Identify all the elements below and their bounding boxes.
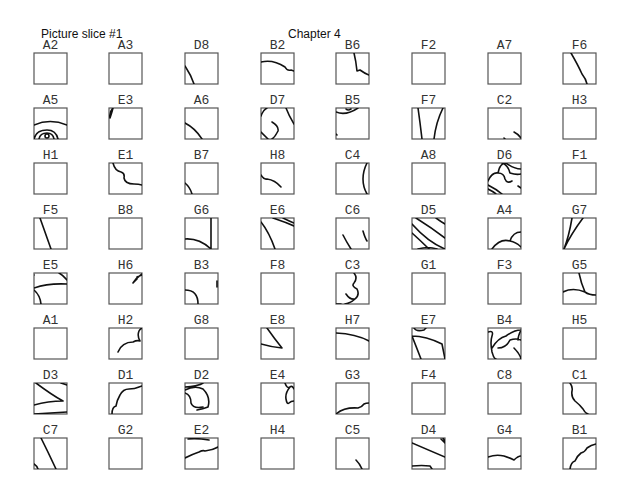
slice-cell: F2 — [412, 39, 472, 91]
slice-image — [488, 383, 521, 414]
slice-label: A5 — [34, 94, 67, 107]
slice-label: G7 — [563, 204, 596, 217]
slice-image — [261, 438, 294, 469]
slice-image — [261, 218, 294, 249]
slice-cell: H8 — [261, 149, 321, 201]
slice-frame — [34, 383, 67, 414]
slice-cell: G7 — [563, 204, 623, 256]
slice-cell: B2 — [261, 39, 321, 91]
slice-image — [488, 328, 521, 359]
slice-cell: A5 — [34, 94, 94, 146]
slice-image — [412, 108, 445, 139]
slice-cell: D4 — [412, 424, 472, 476]
slice-image — [261, 328, 294, 359]
slice-frame — [412, 273, 445, 304]
slice-frame — [563, 108, 596, 139]
slice-cell: H2 — [109, 314, 169, 366]
slice-frame — [412, 438, 445, 469]
slice-label: B3 — [185, 259, 218, 272]
slice-frame — [488, 53, 521, 84]
slice-cell: G3 — [336, 369, 396, 421]
slice-label: F1 — [563, 149, 596, 162]
slice-label: A8 — [412, 149, 445, 162]
slice-image — [563, 383, 596, 414]
slice-label: D2 — [185, 369, 218, 382]
slice-label: H3 — [563, 94, 596, 107]
slice-label: H6 — [109, 259, 142, 272]
slice-frame — [185, 328, 218, 359]
slice-cell: F4 — [412, 369, 472, 421]
slice-label: H7 — [336, 314, 369, 327]
slice-cell: C1 — [563, 369, 623, 421]
slice-cell: F8 — [261, 259, 321, 311]
slice-image — [336, 328, 369, 359]
slice-label: A3 — [109, 39, 142, 52]
slice-label: D6 — [488, 149, 521, 162]
slice-cell: D1 — [109, 369, 169, 421]
slice-label: E7 — [412, 314, 445, 327]
slice-label: C8 — [488, 369, 521, 382]
slice-label: C5 — [336, 424, 369, 437]
slice-image — [336, 53, 369, 84]
slice-label: C4 — [336, 149, 369, 162]
slice-cell: F7 — [412, 94, 472, 146]
slice-frame — [185, 108, 218, 139]
slice-cell: B7 — [185, 149, 245, 201]
slice-image — [261, 163, 294, 194]
slice-image — [336, 438, 369, 469]
slice-frame — [109, 218, 142, 249]
slice-image — [261, 108, 294, 139]
slice-cell: F1 — [563, 149, 623, 201]
slice-label: B1 — [563, 424, 596, 437]
slice-image — [109, 218, 142, 249]
slice-cell: D7 — [261, 94, 321, 146]
slice-label: F2 — [412, 39, 445, 52]
slice-image — [109, 108, 142, 139]
slice-label: C3 — [336, 259, 369, 272]
slice-image — [336, 163, 369, 194]
slice-image — [185, 383, 218, 414]
slice-label: C7 — [34, 424, 67, 437]
slice-frame — [109, 53, 142, 84]
slice-cell: D6 — [488, 149, 548, 201]
slice-image — [109, 438, 142, 469]
slice-cell: H1 — [34, 149, 94, 201]
slice-image — [34, 53, 67, 84]
slice-label: F6 — [563, 39, 596, 52]
slice-frame — [185, 273, 218, 304]
slice-label: C6 — [336, 204, 369, 217]
slice-frame — [488, 273, 521, 304]
slice-frame — [34, 163, 67, 194]
slice-cell: A7 — [488, 39, 548, 91]
slice-frame — [488, 108, 521, 139]
slice-cell: C4 — [336, 149, 396, 201]
slice-label: B2 — [261, 39, 294, 52]
slice-image — [34, 438, 67, 469]
slice-frame — [563, 163, 596, 194]
slice-frame — [261, 438, 294, 469]
slice-label: G4 — [488, 424, 521, 437]
slice-label: H5 — [563, 314, 596, 327]
slice-frame — [34, 328, 67, 359]
slice-frame — [563, 328, 596, 359]
slice-cell: A2 — [34, 39, 94, 91]
slice-image — [412, 163, 445, 194]
slice-cell: D2 — [185, 369, 245, 421]
slice-cell: F3 — [488, 259, 548, 311]
slice-image — [336, 108, 369, 139]
slice-cell: E1 — [109, 149, 169, 201]
slice-image — [412, 53, 445, 84]
slice-frame — [336, 438, 369, 469]
slice-cell: A6 — [185, 94, 245, 146]
slice-label: E4 — [261, 369, 294, 382]
slice-frame — [34, 273, 67, 304]
slice-cell: B4 — [488, 314, 548, 366]
slice-cell: H5 — [563, 314, 623, 366]
slice-label: E6 — [261, 204, 294, 217]
slice-image — [563, 108, 596, 139]
slice-label: H4 — [261, 424, 294, 437]
slice-label: D1 — [109, 369, 142, 382]
slice-image — [412, 218, 445, 249]
slice-cell: B3 — [185, 259, 245, 311]
slice-cell: A4 — [488, 204, 548, 256]
